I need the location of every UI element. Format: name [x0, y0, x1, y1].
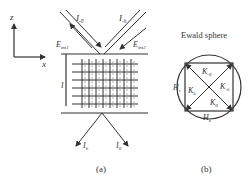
lattice-dot	[91, 89, 92, 90]
z-axis-label: z	[9, 12, 14, 22]
lattice-dot	[119, 77, 120, 78]
svg-text:K-0: K-0	[201, 67, 212, 77]
lattice-dot	[91, 85, 92, 86]
lattice-dot	[119, 81, 120, 82]
vector-label-k-h: Kh	[187, 86, 196, 96]
lattice-dot	[133, 101, 134, 102]
lattice-dot	[105, 85, 106, 86]
exit-label-left-sub: h	[86, 146, 89, 151]
lattice-dot	[105, 77, 106, 78]
lattice-dot	[112, 89, 113, 90]
caption-a: (a)	[96, 164, 106, 174]
lattice-dot	[105, 69, 106, 70]
exit-label-right-sub: 0	[119, 146, 122, 151]
h-sub: z	[178, 88, 181, 93]
lattice-dot	[126, 61, 127, 62]
vector-label-k-minus-0: K-0	[201, 67, 212, 77]
lattice-dot	[133, 93, 134, 94]
diagram-canvas: z x I-0 I-h Eint1 Eint2 l Ih I0 (a) Ewal	[0, 0, 252, 181]
lattice-dot	[126, 85, 127, 86]
svg-text:Hz: Hz	[172, 83, 181, 93]
lattice-dot	[98, 89, 99, 90]
lattice-dot	[126, 77, 127, 78]
k-sub: -h	[225, 87, 230, 92]
caption-b: (b)	[201, 164, 212, 174]
lattice-dot	[133, 89, 134, 90]
lattice-grid	[72, 59, 138, 108]
lattice-dot	[112, 81, 113, 82]
k-sub: h	[193, 91, 196, 96]
exit-beam-right	[102, 113, 128, 146]
lattice-dot	[91, 105, 92, 106]
lattice-dot	[119, 101, 120, 102]
lattice-dot	[105, 65, 106, 66]
lattice-dot	[91, 81, 92, 82]
lattice-dot	[84, 69, 85, 70]
lattice-dot	[84, 93, 85, 94]
lattice-dot	[133, 105, 134, 106]
h-label-x: Hx	[202, 113, 212, 123]
lattice-dot	[126, 105, 127, 106]
lattice-dot	[126, 97, 127, 98]
lattice-dot	[105, 73, 106, 74]
lattice-dot	[91, 61, 92, 62]
lattice-dot	[133, 73, 134, 74]
lattice-dot	[98, 101, 99, 102]
lattice-dot	[98, 81, 99, 82]
svg-text:Hx: Hx	[202, 113, 212, 123]
lattice-dot	[105, 97, 106, 98]
lattice-dot	[98, 85, 99, 86]
exit-beam-left	[76, 113, 102, 146]
lattice-dot	[126, 65, 127, 66]
lattice-dot	[98, 73, 99, 74]
vector-label-k-0: K0	[209, 98, 218, 108]
exit-label-right: I0	[115, 141, 122, 151]
lattice-dot	[84, 97, 85, 98]
lattice-dot	[105, 61, 106, 62]
ewald-title: Ewald sphere	[181, 30, 227, 40]
lattice-dot	[91, 77, 92, 78]
lattice-dot	[119, 69, 120, 70]
lattice-dot	[112, 61, 113, 62]
lattice-dot	[84, 61, 85, 62]
lattice-dot	[84, 73, 85, 74]
lattice-dot	[133, 81, 134, 82]
lattice-dot	[84, 65, 85, 66]
lattice-dot	[119, 97, 120, 98]
lattice-dot	[84, 77, 85, 78]
svg-text:Ih: Ih	[82, 141, 89, 151]
incident-label-right: I-h	[118, 13, 127, 24]
lattice-dot	[84, 105, 85, 106]
incident-label-left-sub: -0	[79, 18, 84, 24]
lattice-dot	[112, 105, 113, 106]
svg-text:K-h: K-h	[219, 82, 230, 92]
lattice-dot	[98, 65, 99, 66]
lattice-dot	[133, 65, 134, 66]
lattice-dot	[119, 73, 120, 74]
field-label-left: Eint1	[55, 40, 69, 50]
lattice-dot	[84, 89, 85, 90]
lattice-dot	[98, 97, 99, 98]
lattice-dot	[133, 85, 134, 86]
svg-text:I-0: I-0	[75, 13, 84, 24]
coordinate-axes: z x	[9, 12, 46, 69]
lattice-dot	[112, 85, 113, 86]
svg-text:K0: K0	[209, 98, 218, 108]
lattice-dot	[105, 105, 106, 106]
lattice-dot	[91, 73, 92, 74]
lattice-dot	[105, 101, 106, 102]
vector-label-k-minus-h: K-h	[219, 82, 230, 92]
incident-label-right-sub: -h	[122, 18, 127, 24]
lattice-dot	[126, 93, 127, 94]
thickness-label: l	[61, 80, 64, 90]
lattice-dot	[112, 65, 113, 66]
lattice-dot	[112, 77, 113, 78]
lattice-dot	[98, 93, 99, 94]
lattice-dot	[91, 65, 92, 66]
lattice-dot	[133, 61, 134, 62]
lattice-dot	[112, 97, 113, 98]
field-label-right: Eint2	[132, 40, 146, 50]
lattice-dot	[133, 97, 134, 98]
svg-text:Kh: Kh	[187, 86, 196, 96]
lattice-dot	[112, 101, 113, 102]
